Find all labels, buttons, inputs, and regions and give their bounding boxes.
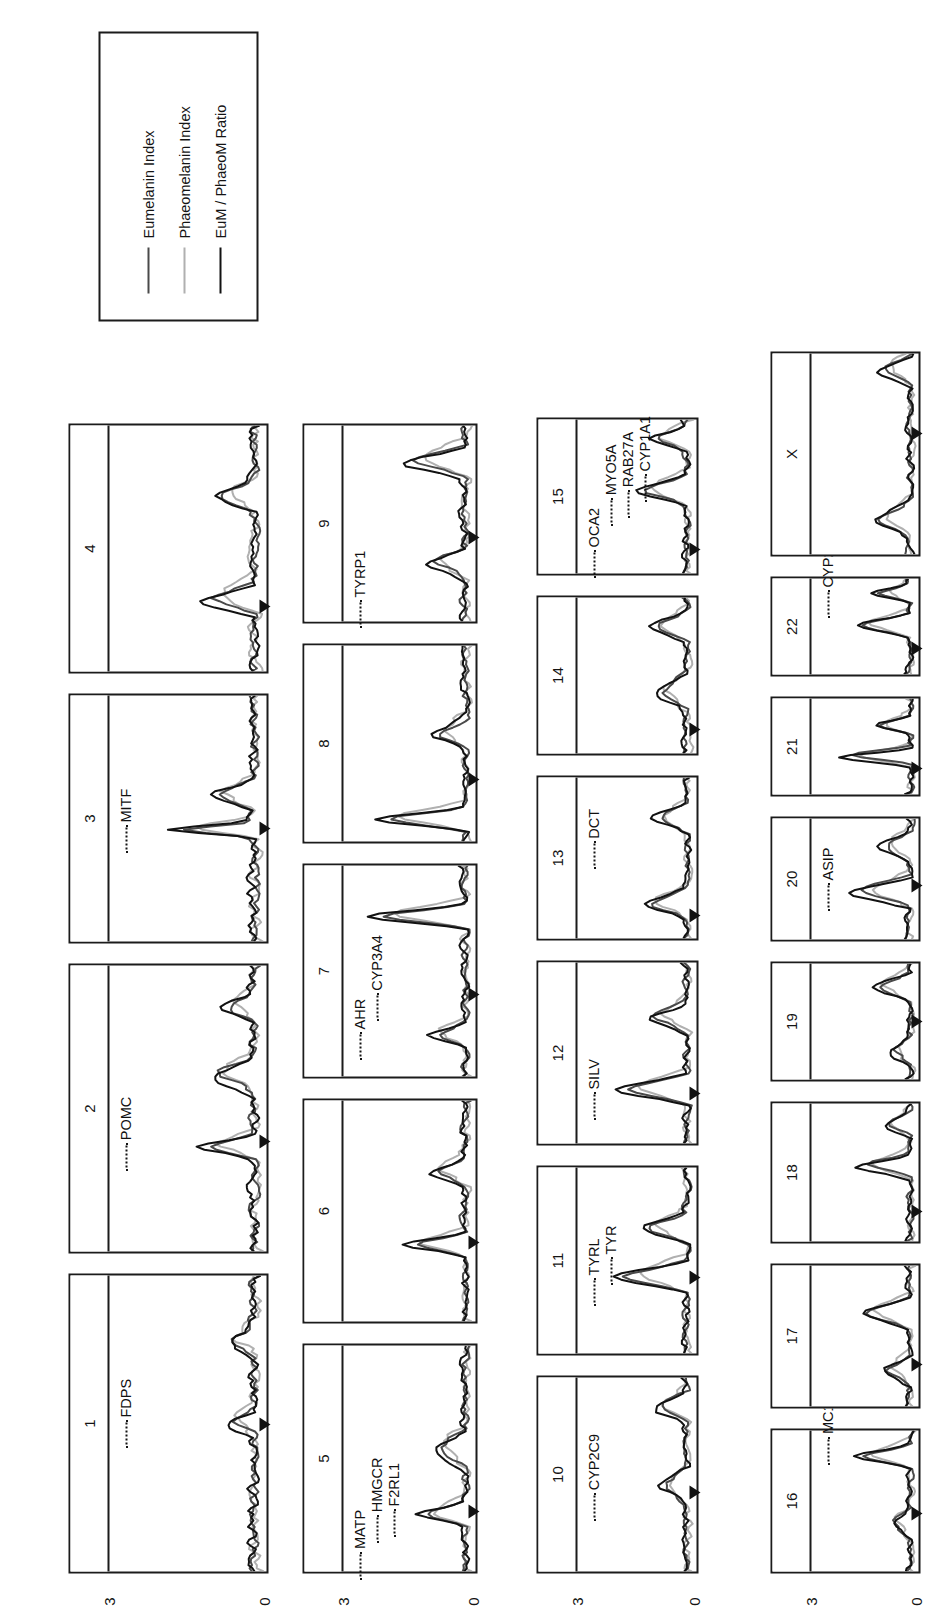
panel-plot-area-8 — [341, 645, 475, 841]
panel-title-16: 16 — [782, 1492, 799, 1509]
chromosome-panel-12: 12SILV — [536, 960, 698, 1145]
chromosome-panel-21: 21 — [770, 696, 920, 796]
panel-strip-label-15: 15 — [538, 419, 577, 573]
panel-plot-area-2 — [107, 965, 266, 1251]
centromere-marker-12 — [689, 1086, 700, 1100]
panel-plot-area-22 — [809, 578, 918, 674]
legend-swatch-0 — [147, 247, 149, 293]
panel-plot-area-10 — [575, 1377, 696, 1571]
chromosome-panel-1: 1FDPS — [68, 1273, 268, 1573]
chromosome-panel-20: 20ASIP — [770, 816, 920, 941]
centromere-marker-5 — [468, 1504, 479, 1518]
panel-plot-area-14 — [575, 597, 696, 753]
chromosome-panel-X: X — [770, 351, 920, 556]
panel-title-19: 19 — [782, 1012, 799, 1029]
signal-trace-7-2 — [367, 865, 469, 1076]
panel-title-10: 10 — [548, 1465, 565, 1482]
panel-plot-area-X — [809, 353, 918, 554]
centromere-marker-18 — [911, 1204, 922, 1218]
panel-plot-area-7 — [341, 865, 475, 1076]
legend-item-0: Eumelanin Index — [140, 130, 156, 293]
y-tick-min-row3: 0 — [908, 1597, 925, 1605]
centromere-marker-9 — [468, 530, 479, 544]
chromosome-panel-10: 10CYP2C9 — [536, 1375, 698, 1573]
signal-trace-1-1 — [231, 1275, 260, 1571]
chromosome-panel-22: 22CYP2D6 — [770, 576, 920, 676]
panel-strip-label-1: 1 — [70, 1275, 109, 1571]
panel-strip-label-12: 12 — [538, 962, 577, 1143]
panel-title-17: 17 — [782, 1327, 799, 1344]
chromosome-panel-19: 19 — [770, 961, 920, 1081]
centromere-marker-19 — [911, 1014, 922, 1028]
chromosome-panel-15: 15OCA2MYO5ARAB27ACYP1A1 — [536, 417, 698, 575]
panel-strip-label-19: 19 — [772, 963, 811, 1079]
legend-label-1: Phaeomelanin Index — [176, 106, 192, 238]
panel-plot-area-5 — [341, 1345, 475, 1571]
centromere-marker-7 — [468, 987, 479, 1001]
panel-plot-area-4 — [107, 425, 266, 671]
panel-title-3: 3 — [80, 814, 97, 823]
signal-trace-12-1 — [628, 962, 692, 1143]
panel-strip-label-6: 6 — [304, 1100, 343, 1321]
chromosome-panel-9: 9TYRP1 — [302, 423, 477, 623]
y-tick-max-row3: 3 — [803, 1597, 820, 1605]
panel-plot-area-17 — [809, 1265, 918, 1406]
legend-label-0: Eumelanin Index — [140, 130, 156, 238]
panel-title-9: 9 — [314, 519, 331, 528]
centromere-marker-16 — [911, 1506, 922, 1520]
panel-strip-label-8: 8 — [304, 645, 343, 841]
chromosome-panel-17: 17 — [770, 1263, 920, 1408]
legend-box: Eumelanin IndexPhaeomelanin IndexEuM / P… — [98, 31, 258, 321]
y-tick-max-row1: 3 — [335, 1597, 352, 1605]
panel-strip-label-9: 9 — [304, 425, 343, 621]
panel-plot-area-16 — [809, 1430, 918, 1571]
centromere-marker-1 — [259, 1417, 270, 1431]
chromosome-panel-6: 6 — [302, 1098, 477, 1323]
signal-trace-17-2 — [863, 1265, 912, 1406]
centromere-marker-4 — [259, 599, 270, 613]
panel-strip-label-11: 11 — [538, 1167, 577, 1353]
panel-strip-label-X: X — [772, 353, 811, 554]
centromere-marker-17 — [911, 1357, 922, 1371]
panel-plot-area-20 — [809, 818, 918, 939]
panel-strip-label-14: 14 — [538, 597, 577, 753]
panel-strip-label-16: 16 — [772, 1430, 811, 1571]
panel-title-22: 22 — [782, 617, 799, 634]
legend-item-1: Phaeomelanin Index — [176, 106, 192, 293]
centromere-marker-10 — [689, 1485, 700, 1499]
centromere-marker-3 — [259, 822, 270, 836]
signal-trace-11-1 — [622, 1167, 691, 1353]
panel-plot-area-3 — [107, 695, 266, 941]
chromosome-panel-13: 13DCT — [536, 775, 698, 940]
y-tick-min-row0: 0 — [256, 1597, 273, 1605]
centromere-marker-2 — [259, 1134, 270, 1148]
chromosome-panel-4: 4 — [68, 423, 268, 673]
legend-swatch-1 — [183, 247, 185, 293]
signal-trace-18-2 — [855, 1103, 913, 1241]
panel-plot-area-12 — [575, 962, 696, 1143]
panel-plot-area-21 — [809, 698, 918, 794]
centromere-marker-22 — [911, 641, 922, 655]
rotated-figure-group: 1FDPS2POMC3MITF45MATPHMGCRF2RL167AHRCYP3… — [0, 0, 949, 1615]
chromosome-panel-7: 7AHRCYP3A4 — [302, 863, 477, 1078]
chromosome-panel-14: 14 — [536, 595, 698, 755]
signal-trace-3-1 — [184, 695, 260, 941]
panel-title-7: 7 — [314, 966, 331, 975]
chromosome-panel-8: 8 — [302, 643, 477, 843]
panel-strip-label-5: 5 — [304, 1345, 343, 1571]
panel-plot-area-6 — [341, 1100, 475, 1321]
panel-strip-label-17: 17 — [772, 1265, 811, 1406]
panel-title-20: 20 — [782, 870, 799, 887]
signal-trace-5-2 — [415, 1345, 469, 1571]
chromosome-panel-11: 11TYRLTYR — [536, 1165, 698, 1355]
chromosome-panel-2: 2POMC — [68, 963, 268, 1253]
y-tick-min-row1: 0 — [465, 1597, 482, 1605]
chromosome-panel-16: 16MC1R — [770, 1428, 920, 1573]
panel-strip-label-18: 18 — [772, 1103, 811, 1241]
signal-trace-12-2 — [615, 962, 690, 1143]
signal-trace-9-2 — [403, 425, 467, 621]
centromere-marker-8 — [468, 772, 479, 786]
centromere-marker-X — [911, 426, 922, 440]
panel-title-11: 11 — [548, 1252, 565, 1268]
panel-strip-label-2: 2 — [70, 965, 109, 1251]
